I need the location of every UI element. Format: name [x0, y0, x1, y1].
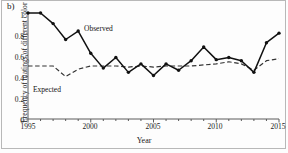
- data-point: [164, 62, 167, 65]
- axes: [26, 13, 280, 123]
- data-point: [152, 74, 155, 77]
- x-tick-marks: [28, 119, 279, 123]
- data-point: [215, 58, 218, 61]
- plot-area: [0, 0, 288, 153]
- data-point: [227, 56, 230, 59]
- data-point: [139, 62, 142, 65]
- data-point: [189, 59, 192, 62]
- data-point: [114, 56, 117, 59]
- data-point: [26, 11, 29, 14]
- data-point: [77, 29, 80, 32]
- data-point: [265, 41, 268, 44]
- data-point: [202, 45, 205, 48]
- data-point: [64, 38, 67, 41]
- series-line-observed: [28, 13, 279, 76]
- data-point: [89, 52, 92, 55]
- data-point: [277, 31, 280, 34]
- data-point: [51, 22, 54, 25]
- data-point: [39, 11, 42, 14]
- data-point: [127, 71, 130, 74]
- data-point: [102, 66, 105, 69]
- data-point: [177, 69, 180, 72]
- data-point: [252, 71, 255, 74]
- figure-panel: b) Frequency of matings of different col…: [0, 0, 288, 153]
- data-point: [240, 59, 243, 62]
